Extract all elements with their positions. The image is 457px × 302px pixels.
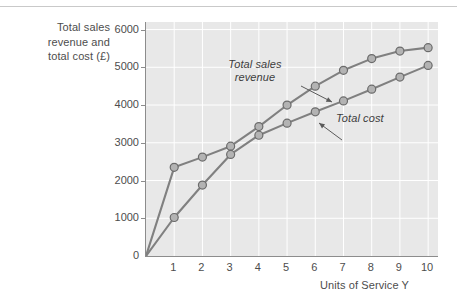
y-tick-label-2000: 2000 <box>93 174 139 186</box>
y-tick-mark-2000 <box>141 181 146 182</box>
chart-figure: Total sales revenue and total cost (£) 0… <box>0 0 457 302</box>
y-tick-label-6000: 6000 <box>93 23 139 35</box>
y-tick-label-4000: 4000 <box>93 98 139 110</box>
x-tick-label-4: 4 <box>246 261 270 273</box>
y-tick-label-3000: 3000 <box>93 136 139 148</box>
x-tick-label-1: 1 <box>161 261 185 273</box>
x-tick-label-10: 10 <box>415 261 439 273</box>
y-tick-mark-4000 <box>141 105 146 106</box>
top-divider-rule <box>0 6 457 7</box>
x-tick-label-2: 2 <box>189 261 213 273</box>
x-tick-label-7: 7 <box>330 261 354 273</box>
x-tick-label-5: 5 <box>274 261 298 273</box>
y-tick-label-1000: 1000 <box>93 211 139 223</box>
y-tick-mark-5000 <box>141 67 146 68</box>
annotation-total-cost: Total cost <box>336 112 384 125</box>
y-tick-mark-6000 <box>141 30 146 31</box>
y-axis-title-line-2: revenue and <box>6 35 110 50</box>
annotation-revenue-line-2: revenue <box>216 71 294 84</box>
y-tick-label-5000: 5000 <box>93 60 139 72</box>
y-tick-mark-1000 <box>141 218 146 219</box>
annotation-revenue-line-1: Total sales <box>216 58 294 71</box>
y-tick-label-0: 0 <box>93 249 139 261</box>
x-tick-label-8: 8 <box>359 261 383 273</box>
x-tick-label-9: 9 <box>387 261 411 273</box>
x-tick-label-6: 6 <box>302 261 326 273</box>
x-tick-label-3: 3 <box>218 261 242 273</box>
y-tick-mark-3000 <box>141 143 146 144</box>
x-axis-title: Units of Service Y <box>320 279 409 291</box>
series-markers <box>170 44 432 222</box>
annotation-total-sales-revenue: Total sales revenue <box>216 58 294 84</box>
